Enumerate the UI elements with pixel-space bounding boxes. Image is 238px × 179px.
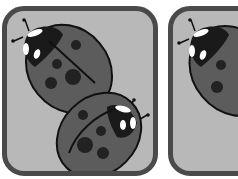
game-card-1[interactable] [2, 6, 158, 176]
game-card-2[interactable] [168, 6, 238, 176]
ladybug-icon [173, 11, 238, 171]
ladybug-pair-icon [7, 11, 153, 171]
